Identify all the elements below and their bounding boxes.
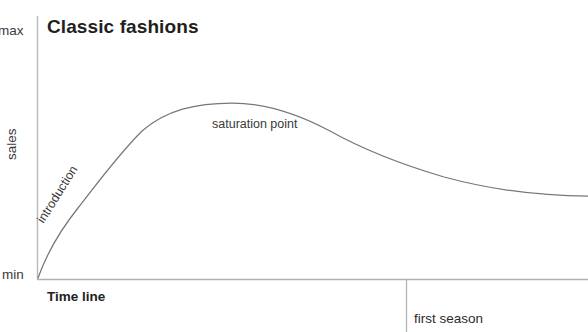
x-axis-title: Time line <box>47 290 105 304</box>
chart-canvas <box>0 0 588 332</box>
annotation-saturation-point: saturation point <box>212 118 297 131</box>
chart-title: Classic fashions <box>47 17 199 36</box>
x-axis-period-label-first-season: first season <box>414 312 483 326</box>
y-axis-title: sales <box>5 128 19 160</box>
chart-container: Classic fashions max min sales Time line… <box>0 0 588 332</box>
sales-curve <box>38 103 588 278</box>
y-axis-min-tick-label: min <box>2 268 24 282</box>
y-axis-max-tick-label: max <box>0 24 24 38</box>
